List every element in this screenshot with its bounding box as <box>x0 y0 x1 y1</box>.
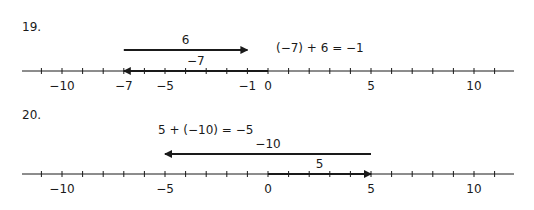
tick-label: 5 <box>367 79 375 93</box>
vector-label: −7 <box>187 54 205 68</box>
tick-label: 10 <box>466 79 481 93</box>
tick-label: −5 <box>156 79 174 93</box>
vector-label: −10 <box>255 137 280 151</box>
tick-label: −10 <box>49 79 74 93</box>
tick-label: −5 <box>156 182 174 196</box>
tick-label: −7 <box>115 79 133 93</box>
vector-label: 5 <box>316 157 324 171</box>
vector-label: 6 <box>182 33 190 47</box>
tick-label: 0 <box>264 79 272 93</box>
equation-20: 5 + (−10) = −5 <box>158 123 253 137</box>
tick-label: 10 <box>466 182 481 196</box>
equation-19: (−7) + 6 = −1 <box>276 41 364 55</box>
tick-label: 5 <box>367 182 375 196</box>
number-line-diagram: −10−7−5−10510−76 (−7) + 6 = −1 −10−50510… <box>0 0 534 210</box>
tick-label: −10 <box>49 182 74 196</box>
number-line-20: −10−505105−10 <box>22 137 514 196</box>
number-line-19: −10−7−5−10510−76 <box>22 33 514 93</box>
tick-label: 0 <box>264 182 272 196</box>
tick-label: −1 <box>239 79 257 93</box>
